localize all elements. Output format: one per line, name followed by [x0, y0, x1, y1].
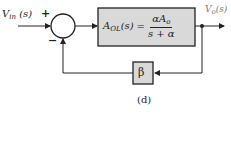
forward-block-label: AOL(s) = αAo s + α	[103, 14, 175, 39]
equals-sign: =	[137, 22, 145, 32]
numerator: αAo	[150, 14, 172, 28]
figure-caption: (d)	[137, 95, 151, 105]
numerator-sub: o	[166, 18, 170, 26]
input-label: Vin (s)	[2, 9, 32, 21]
plus-sign: +	[41, 8, 50, 19]
beta-label: β	[138, 67, 144, 78]
input-label-sub: in	[9, 13, 16, 21]
aol-arg: (s)	[121, 20, 134, 31]
transfer-function-fraction: αAo s + α	[148, 14, 175, 39]
input-label-arg: (s)	[19, 8, 32, 19]
output-label: Vo(s)	[205, 5, 227, 16]
denominator: s + α	[148, 28, 175, 39]
aol-sub: OL	[110, 25, 120, 33]
numerator-text: αA	[152, 13, 166, 24]
minus-sign: −	[48, 35, 57, 46]
output-label-arg: (s)	[216, 4, 228, 14]
